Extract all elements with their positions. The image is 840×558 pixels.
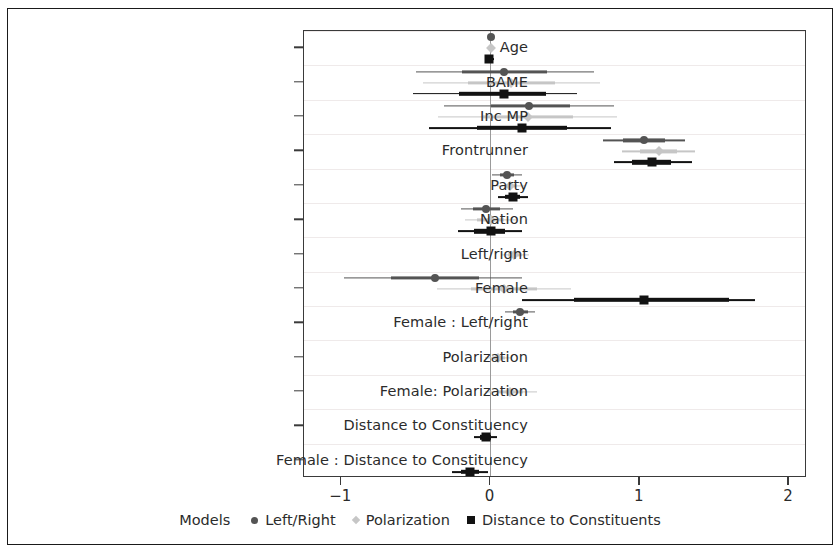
y-axis-tick [294,425,303,426]
y-axis-label: Female : Distance to Constituency [276,452,528,468]
x-axis-label: 1 [634,487,644,505]
legend-item-label: Distance to Constituents [482,512,661,528]
legend-title: Models [179,512,230,528]
y-axis-label: Female [475,280,528,296]
gridline [304,340,805,341]
legend: Models Left/RightPolarizationDistance to… [0,512,840,528]
diamond-key-icon [351,516,359,524]
y-axis-label: Polarization [443,349,528,365]
estimate-marker [486,43,496,53]
gridline [304,375,805,376]
plot-area: AgeBAMEInc MPFrontrunnerPartyNationLeft/… [0,0,840,558]
square-key-icon [467,516,475,524]
y-axis-label: BAME [486,74,528,90]
estimate-marker [500,89,509,98]
gridline [304,100,805,101]
gridline [304,237,805,238]
estimate-marker [487,33,495,41]
x-axis-label: −1 [329,487,351,505]
gridline [304,31,805,32]
gridline [304,444,805,445]
y-axis-tick [294,459,303,460]
estimate-marker [486,227,495,236]
estimate-marker [640,295,649,304]
legend-item-label: Polarization [366,512,450,528]
coefficient-plot-figure: AgeBAMEInc MPFrontrunnerPartyNationLeft/… [0,0,840,558]
y-axis-tick [294,287,303,288]
gridline [304,306,805,307]
plot-panel [303,30,806,477]
y-axis-tick [294,356,303,357]
x-axis-label: 2 [783,487,793,505]
legend-item[interactable]: Left/Right [251,512,335,528]
y-axis-tick [294,322,303,323]
legend-item[interactable]: Polarization [353,512,450,528]
y-axis-label: Female : Left/right [393,314,528,330]
x-axis-tick [489,477,490,485]
y-axis-tick [294,218,303,219]
gridline [304,409,805,410]
y-axis-label: Left/right [461,246,528,262]
y-axis-tick [294,150,303,151]
y-axis-label: Age [500,39,528,55]
legend-item-label: Left/Right [265,512,335,528]
circle-key-icon [251,517,258,524]
legend-item[interactable]: Distance to Constituents [467,512,661,528]
y-axis-tick [294,253,303,254]
estimate-marker [640,136,648,144]
y-axis-tick [294,115,303,116]
y-axis-label: Frontrunner [442,142,528,158]
estimate-marker [647,158,656,167]
y-axis-tick [294,81,303,82]
estimate-marker [465,467,474,476]
gridline [304,134,805,135]
y-axis-label: Distance to Constituency [343,417,528,433]
estimate-marker [431,274,439,282]
estimate-marker [654,146,664,156]
y-axis-label: Nation [480,211,528,227]
gridline [304,203,805,204]
x-axis-tick [340,477,341,485]
gridline [304,65,805,66]
y-axis-label: Party [490,177,528,193]
estimate-marker [485,55,494,64]
y-axis-tick [294,390,303,391]
y-axis-tick [294,184,303,185]
estimate-marker [508,192,517,201]
y-axis-label: Female: Polarization [380,383,528,399]
x-axis-tick [638,477,639,485]
x-axis-label: 0 [485,487,495,505]
y-axis-tick [294,46,303,47]
gridline [304,272,805,273]
x-axis-tick [787,477,788,485]
y-axis-label: Inc MP [480,108,528,124]
estimate-marker [517,123,526,132]
estimate-marker [482,433,491,442]
confidence-interval-inner [574,298,729,302]
gridline [304,169,805,170]
